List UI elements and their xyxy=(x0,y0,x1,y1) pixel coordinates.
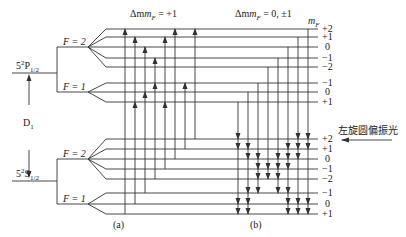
mf-upper-2: 0 xyxy=(325,42,330,52)
mf-lower-5: −1 xyxy=(322,188,333,198)
upper-f1-label: F = 1 xyxy=(63,82,86,92)
panel-a-label: (a) xyxy=(113,220,124,230)
transition-a-header: ΔmmF = +1 xyxy=(130,9,177,22)
transition-b-header: ΔmmF = 0, ±1 xyxy=(235,9,292,22)
upper-state-label: 52P1/2 xyxy=(16,60,39,74)
d1-label: D1 xyxy=(23,118,34,131)
mf-upper-7: +1 xyxy=(322,97,333,107)
mf-lower-4: −2 xyxy=(322,174,333,184)
panel-b-label: (b) xyxy=(250,220,262,230)
light-label: 左旋圆偏振光 xyxy=(338,126,398,136)
upper-f2-label: F = 2 xyxy=(63,37,86,47)
mf-header: mF xyxy=(308,16,320,29)
hyperfine-diagram: ΔmmF = +1 ΔmmF = 0, ±1 mF 52P1/2 52S1/2 … xyxy=(0,0,406,237)
level-diagram-svg xyxy=(0,0,406,237)
mf-lower-7: +1 xyxy=(322,209,333,219)
lower-f2-label: F = 2 xyxy=(63,149,86,159)
mf-upper-4: −2 xyxy=(322,62,333,72)
lower-state-label: 52S1/2 xyxy=(16,168,39,182)
lower-f1-label: F = 1 xyxy=(63,194,86,204)
